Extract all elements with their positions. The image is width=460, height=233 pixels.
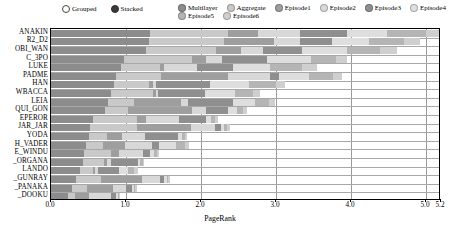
bar-segment-episode5[interactable]: [369, 38, 404, 45]
bar-segment-episode4[interactable]: [279, 73, 309, 80]
bar-_panaka[interactable]: [51, 185, 137, 192]
bar-segment-episode4[interactable]: [302, 47, 347, 54]
bar-segment-episode2[interactable]: [191, 124, 216, 131]
bar-lando[interactable]: [51, 167, 138, 174]
bar-segment-episode5[interactable]: [270, 64, 302, 71]
bar-segment-episode1[interactable]: [75, 193, 89, 200]
bar-segment-aggregate[interactable]: [146, 47, 217, 54]
bar-segment-episode4[interactable]: [210, 81, 249, 88]
bar-segment-aggregate[interactable]: [68, 193, 76, 200]
bar-segment-episode3[interactable]: [156, 81, 210, 88]
bar-segment-multilayer[interactable]: [51, 167, 80, 174]
bar-_dooku[interactable]: [51, 193, 120, 200]
series-legend-item-episode2[interactable]: Episode2: [320, 4, 356, 12]
bar-segment-multilayer[interactable]: [51, 64, 121, 71]
bar-segment-multilayer[interactable]: [51, 90, 111, 97]
bar-segment-multilayer[interactable]: [51, 142, 86, 149]
bar-segment-episode3[interactable]: [270, 73, 279, 80]
bar-segment-aggregate[interactable]: [83, 159, 104, 166]
bar-segment-episode2[interactable]: [192, 107, 206, 114]
bar-segment-aggregate[interactable]: [121, 64, 160, 71]
bar-segment-multilayer[interactable]: [51, 159, 83, 166]
bar-segment-aggregate[interactable]: [84, 150, 111, 157]
bar-segment-episode3[interactable]: [143, 150, 151, 157]
bar-leia[interactable]: [51, 99, 275, 106]
bar-_organa[interactable]: [51, 159, 144, 166]
series-swatch-icon[interactable]: [223, 12, 231, 20]
bar-segment-aggregate[interactable]: [86, 142, 103, 149]
radio-icon[interactable]: [111, 5, 119, 13]
bar-segment-episode6[interactable]: [134, 167, 138, 174]
bar-segment-aggregate[interactable]: [90, 124, 137, 131]
bar-segment-episode3[interactable]: [263, 47, 302, 54]
bar-segment-episode6[interactable]: [333, 73, 342, 80]
bar-eperor[interactable]: [51, 116, 218, 123]
bar-anakin[interactable]: [51, 30, 440, 37]
bar-segment-aggregate[interactable]: [93, 116, 137, 123]
bar-qui_gon[interactable]: [51, 107, 247, 114]
bar-segment-episode4[interactable]: [159, 142, 176, 149]
series-swatch-icon[interactable]: [227, 4, 235, 12]
bar-segment-aggregate[interactable]: [116, 73, 161, 80]
bar-segment-episode6[interactable]: [215, 116, 218, 123]
bar-segment-episode3[interactable]: [197, 64, 233, 71]
bar-segment-episode5[interactable]: [255, 99, 269, 106]
bar-segment-episode5[interactable]: [311, 56, 337, 63]
bar-segment-episode1[interactable]: [137, 116, 146, 123]
bar-segment-episode6[interactable]: [227, 124, 229, 131]
bar-r2_d2[interactable]: [51, 38, 420, 45]
bar-segment-episode6[interactable]: [185, 133, 187, 140]
series-legend-item-multilayer[interactable]: Multilayer: [178, 4, 218, 12]
bar-segment-multilayer[interactable]: [51, 73, 116, 80]
bar-segment-multilayer[interactable]: [51, 81, 114, 88]
bar-segment-aggregate[interactable]: [89, 133, 108, 140]
bar-segment-multilayer[interactable]: [51, 133, 89, 140]
bar-segment-multilayer[interactable]: [51, 107, 105, 114]
bar-segment-episode6[interactable]: [276, 81, 285, 88]
bar-segment-aggregate[interactable]: [72, 185, 87, 192]
bar-segment-episode2[interactable]: [113, 185, 127, 192]
bar-segment-episode5[interactable]: [347, 47, 380, 54]
bar-segment-episode4[interactable]: [267, 56, 311, 63]
series-legend-item-aggregate[interactable]: Aggregate: [227, 4, 266, 12]
bar-yoda[interactable]: [51, 133, 187, 140]
bar-segment-episode2[interactable]: [206, 56, 223, 63]
bar-segment-multilayer[interactable]: [51, 176, 76, 183]
bar-segment-episode1[interactable]: [111, 150, 119, 157]
bar-segment-episode6[interactable]: [253, 90, 261, 97]
bar-segment-aggregate[interactable]: [80, 167, 94, 174]
bar-segment-aggregate[interactable]: [114, 81, 149, 88]
bar-segment-episode2[interactable]: [181, 99, 188, 106]
bar-segment-episode6[interactable]: [426, 30, 440, 37]
bar-segment-episode1[interactable]: [192, 56, 206, 63]
bar-segment-episode6[interactable]: [404, 38, 421, 45]
bar-segment-episode1[interactable]: [107, 133, 122, 140]
bar-segment-episode3[interactable]: [145, 133, 178, 140]
bar-segment-episode3[interactable]: [222, 56, 267, 63]
mode-option-grouped[interactable]: Grouped: [62, 5, 97, 13]
bar-segment-episode3[interactable]: [111, 159, 138, 166]
series-swatch-icon[interactable]: [178, 12, 186, 20]
bar-segment-multilayer[interactable]: [51, 185, 72, 192]
bar-_gunray[interactable]: [51, 176, 170, 183]
bar-segment-episode1[interactable]: [134, 99, 181, 106]
bar-segment-episode1[interactable]: [216, 47, 241, 54]
series-swatch-icon[interactable]: [320, 4, 328, 12]
series-swatch-icon[interactable]: [410, 4, 418, 12]
bar-segment-episode1[interactable]: [103, 142, 126, 149]
bar-segment-multilayer[interactable]: [51, 150, 84, 157]
bar-segment-episode1[interactable]: [161, 73, 229, 80]
bar-padme[interactable]: [51, 73, 342, 80]
bar-segment-episode2[interactable]: [274, 38, 300, 45]
series-legend-item-episode5[interactable]: Episode5: [178, 12, 214, 20]
bar-segment-episode6[interactable]: [269, 99, 275, 106]
bar-segment-multilayer[interactable]: [51, 30, 150, 37]
bar-segment-multilayer[interactable]: [51, 47, 146, 54]
bar-segment-aggregate[interactable]: [108, 99, 134, 106]
bar-segment-aggregate[interactable]: [149, 38, 224, 45]
mode-option-stacked[interactable]: Stacked: [111, 5, 143, 13]
bar-segment-episode3[interactable]: [98, 167, 119, 174]
bar-segment-episode5[interactable]: [387, 30, 426, 37]
bar-e_windu[interactable]: [51, 150, 159, 157]
bar-segment-episode4[interactable]: [332, 38, 370, 45]
